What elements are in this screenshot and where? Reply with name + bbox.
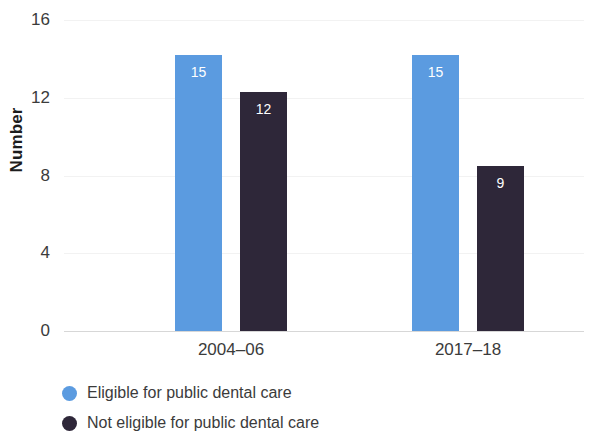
y-axis-tick-label: 16 (14, 10, 50, 30)
bar-value-label: 15 (175, 64, 222, 80)
y-axis-tick-label: 0 (14, 321, 50, 341)
gridline (64, 20, 584, 21)
bar: 12 (240, 92, 287, 331)
y-axis-tick-label: 12 (14, 88, 50, 108)
gridline (64, 98, 584, 99)
chart-legend: Eligible for public dental careNot eligi… (62, 378, 582, 438)
bar: 9 (477, 166, 524, 331)
x-axis-baseline (64, 331, 584, 332)
bar: 15 (412, 55, 459, 331)
bar: 15 (175, 55, 222, 331)
bar-value-label: 9 (477, 175, 524, 191)
bar-value-label: 12 (240, 101, 287, 117)
legend-swatch-circle-icon (62, 386, 77, 401)
plot-area: 1512159 (64, 20, 584, 331)
legend-label: Eligible for public dental care (87, 384, 292, 402)
legend-swatch-circle-icon (62, 416, 77, 431)
x-axis-category-label: 2017–18 (388, 340, 548, 360)
y-axis-tick-label: 4 (14, 243, 50, 263)
legend-label: Not eligible for public dental care (87, 414, 319, 432)
y-axis-tick-label: 8 (14, 166, 50, 186)
legend-item: Eligible for public dental care (62, 378, 582, 408)
x-axis-category-label: 2004–06 (151, 340, 311, 360)
bar-chart: Number 1512159 0481216 2004–062017–18 El… (0, 0, 598, 444)
legend-item: Not eligible for public dental care (62, 408, 582, 438)
bar-value-label: 15 (412, 64, 459, 80)
